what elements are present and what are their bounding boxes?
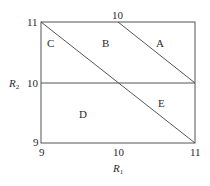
x-tick-9: 9	[39, 147, 45, 158]
y-tick-9: 9	[33, 137, 39, 148]
y-tick-11: 11	[27, 17, 38, 28]
y-tick-10: 10	[27, 78, 38, 89]
y-axis-title: R2	[9, 78, 19, 93]
region-label-e: E	[158, 98, 165, 109]
region-label-d: D	[79, 109, 87, 120]
top-tick-10: 10	[112, 10, 123, 21]
x-axis-title-main: R	[113, 162, 120, 174]
y-axis-title-main: R	[9, 77, 16, 89]
x-tick-11: 11	[190, 147, 201, 158]
region-label-a: A	[156, 38, 164, 49]
region-label-c: C	[47, 38, 54, 49]
x-axis-title-sub: 1	[120, 168, 124, 176]
x-axis-title: R1	[113, 163, 123, 178]
y-axis-title-sub: 2	[16, 83, 20, 91]
x-tick-10: 10	[113, 147, 124, 158]
upper-diagonal-line	[118, 22, 195, 83]
region-label-b: B	[102, 38, 109, 49]
region-diagram: C B A E D 10 11 10 9 R2 9 10 11 R1	[0, 0, 210, 186]
